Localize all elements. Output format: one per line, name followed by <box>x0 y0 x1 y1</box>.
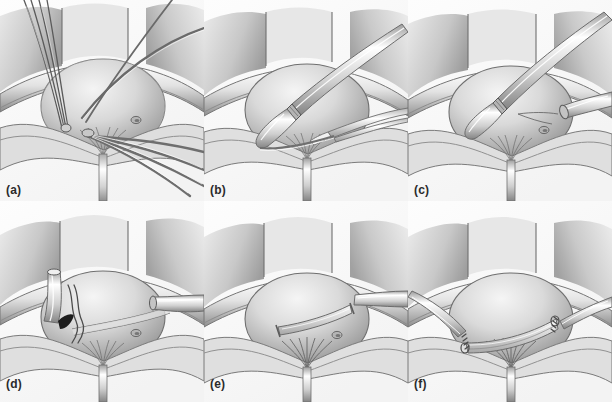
panel-a-label: (a) <box>6 184 21 196</box>
panel-b-illustration <box>204 0 408 201</box>
panel-d-label: (d) <box>6 378 22 390</box>
figure-panel-d: (d) <box>0 201 204 402</box>
figure-panel-b: (b) <box>204 0 408 201</box>
panel-d-illustration <box>0 201 204 402</box>
figure-panel-a: (a) <box>0 0 204 201</box>
figure-panel-c: (c) <box>408 0 612 201</box>
panel-b-label: (b) <box>210 184 226 196</box>
figure-root: (a) <box>0 0 612 402</box>
panel-e-illustration <box>204 201 408 402</box>
panel-c-illustration <box>408 0 612 201</box>
figure-panel-f: (f) <box>408 201 612 402</box>
panel-a-illustration <box>0 0 204 201</box>
panel-f-illustration <box>408 201 612 402</box>
figure-panel-e: (e) <box>204 201 408 402</box>
panel-grid: (a) <box>0 0 612 402</box>
panel-e-label: (e) <box>210 378 225 390</box>
panel-f-label: (f) <box>414 378 427 390</box>
panel-c-label: (c) <box>414 184 429 196</box>
